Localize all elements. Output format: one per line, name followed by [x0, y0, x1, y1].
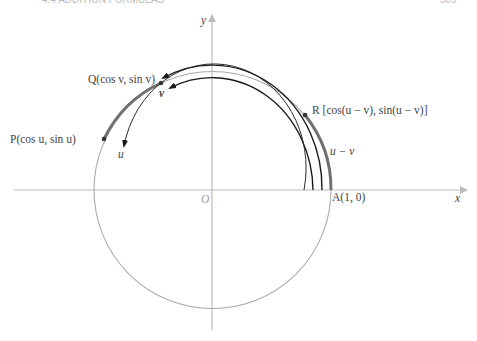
point-q: [159, 81, 164, 86]
arc-label-u: u: [118, 148, 124, 160]
origin-label: O: [201, 193, 210, 205]
arc-v-inner: [170, 78, 313, 190]
y-axis-label: y: [200, 14, 207, 27]
point-p-label: P(cos u, sin u): [10, 133, 76, 146]
point-a-label: A(1, 0): [332, 191, 365, 204]
arc-q-to-p-thick: [104, 83, 161, 139]
unit-circle-diagram: y x O Q(cos v, sin v) P(cos u, sin u) R …: [0, 0, 477, 341]
arc-label-v: v: [159, 87, 165, 99]
point-p: [102, 137, 107, 142]
point-r-label: R [cos(u − v), sin(u − v)]: [312, 104, 428, 117]
point-r: [303, 113, 308, 118]
arc-label-u-minus-v: u − v: [330, 145, 355, 157]
point-q-label: Q(cos v, sin v): [88, 73, 155, 86]
arc-u: [212, 0, 396, 190]
x-axis-label: x: [454, 192, 461, 204]
arc-v-outer: [163, 65, 322, 190]
